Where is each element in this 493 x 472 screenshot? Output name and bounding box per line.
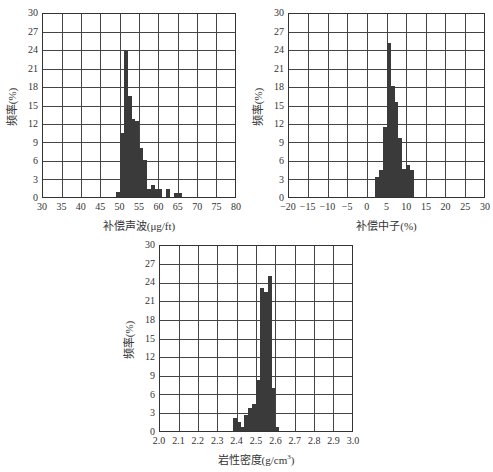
y-tick-label: 12	[20, 119, 38, 129]
gridline	[289, 32, 484, 33]
y-tick-label: 30	[266, 8, 284, 18]
y-tick-label: 9	[266, 138, 284, 148]
gridline	[160, 320, 352, 321]
gridline	[160, 376, 352, 377]
x-tick-label: 3.0	[338, 436, 368, 446]
y-tick-label: 27	[20, 27, 38, 37]
y-tick-label: 18	[137, 315, 155, 325]
y-tick-label: 3	[20, 175, 38, 185]
y-tick-label: 24	[137, 277, 155, 287]
y-tick-label: 15	[137, 334, 155, 344]
y-tick-label: 3	[266, 175, 284, 185]
y-axis-label: 频率(%)	[249, 82, 265, 132]
x-axis-label: 补偿声波(μg/ft)	[42, 217, 236, 233]
gridline	[160, 357, 352, 358]
gridline	[160, 283, 352, 284]
y-tick-label: 30	[20, 8, 38, 18]
gridline	[43, 87, 235, 88]
y-tick-label: 21	[20, 64, 38, 74]
y-tick-label: 3	[137, 408, 155, 418]
y-tick-label: 27	[137, 259, 155, 269]
histogram-bar	[158, 189, 162, 197]
gridline	[43, 69, 235, 70]
y-tick-label: 12	[137, 352, 155, 362]
y-tick-label: 6	[20, 156, 38, 166]
y-tick-label: 24	[266, 45, 284, 55]
x-axis-label: 岩性密度(g/cm3)	[159, 451, 353, 467]
y-tick-label: 9	[20, 138, 38, 148]
histogram-bar	[410, 170, 414, 197]
y-tick-label: 12	[266, 119, 284, 129]
y-tick-label: 9	[137, 371, 155, 381]
x-tick-label: 30	[470, 202, 493, 212]
gridline	[160, 339, 352, 340]
y-tick-label: 6	[137, 390, 155, 400]
gridline	[43, 106, 235, 107]
y-tick-label: 18	[20, 82, 38, 92]
x-tick-label: 80	[221, 202, 251, 212]
y-tick-label: 24	[20, 45, 38, 55]
y-tick-label: 15	[266, 101, 284, 111]
gridline	[43, 32, 235, 33]
y-tick-label: 21	[137, 296, 155, 306]
y-tick-label: 27	[266, 27, 284, 37]
gridline	[160, 264, 352, 265]
histogram-bar	[275, 427, 279, 431]
y-tick-label: 15	[20, 101, 38, 111]
y-tick-label: 30	[137, 240, 155, 250]
histogram-bar	[271, 388, 275, 431]
y-tick-label: 6	[266, 156, 284, 166]
y-axis-label: 频率(%)	[3, 82, 19, 132]
y-tick-label: 18	[266, 82, 284, 92]
plot-area	[288, 13, 485, 198]
x-axis-label: 补偿中子(%)	[288, 217, 485, 233]
y-axis-label: 频率(%)	[120, 315, 136, 365]
gridline	[160, 301, 352, 302]
plot-area	[42, 13, 236, 198]
histogram-bar	[177, 193, 181, 197]
gridline	[43, 50, 235, 51]
plot-area	[159, 245, 353, 432]
histogram-bar	[166, 189, 170, 197]
y-tick-label: 21	[266, 64, 284, 74]
